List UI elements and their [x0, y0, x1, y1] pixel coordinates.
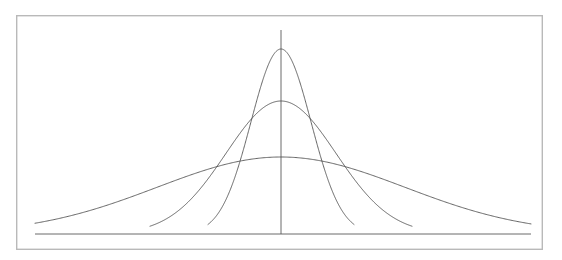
figure-root	[0, 0, 562, 260]
plot-frame-border	[17, 16, 543, 250]
gaussian-curves-plot	[0, 0, 562, 260]
gaussian-curve-wide	[35, 157, 531, 224]
